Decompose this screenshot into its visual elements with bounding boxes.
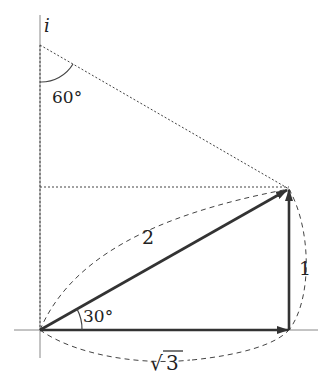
angle-arc-60 [40, 64, 73, 82]
angle-arc-30 [77, 309, 82, 330]
horizontal-side-label: √ 3 [150, 351, 183, 375]
dashed-arc-horizontal-right [192, 330, 289, 360]
imaginary-axis-label: i [44, 15, 50, 36]
hypotenuse-label: 2 [142, 226, 154, 248]
radical-value: 3 [166, 351, 179, 375]
vertical-side-label: 1 [299, 257, 311, 279]
angle-label-30: 30° [83, 306, 113, 326]
complex-plane-diagram: i 60° 30° 2 1 √ 3 [0, 0, 333, 385]
angle-label-60: 60° [52, 87, 82, 107]
radical-sign: √ [150, 351, 163, 375]
dotted-diagonal-guide [40, 45, 289, 189]
